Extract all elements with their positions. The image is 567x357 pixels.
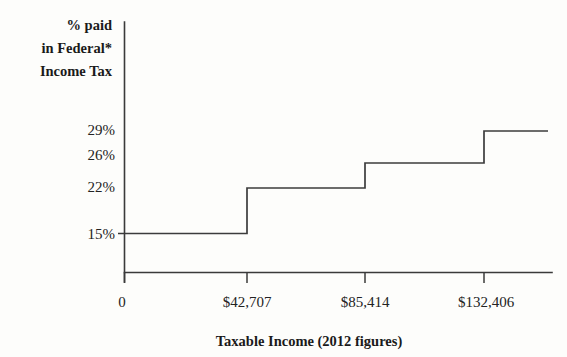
y-tick-label-22: 22%: [88, 179, 116, 195]
x-tick-label-85414: $85,414: [341, 294, 390, 310]
y-axis-title-line-2: in Federal*: [42, 40, 112, 56]
y-axis-title-line-3: Income Tax: [40, 63, 113, 79]
x-tick-label-132406: $132,406: [458, 294, 515, 310]
y-tick-label-29: 29%: [88, 122, 116, 138]
x-axis-title: Taxable Income (2012 figures): [216, 333, 403, 350]
x-tick-label-42707: $42,707: [223, 294, 272, 310]
y-axis-title-line-1: % paid: [66, 17, 112, 33]
x-tick-label-0: 0: [118, 294, 126, 310]
y-tick-label-15: 15%: [88, 226, 116, 242]
y-tick-label-26: 26%: [88, 147, 116, 163]
tax-rate-step-chart: % paid in Federal* Income Tax 29% 26% 22…: [0, 0, 567, 357]
